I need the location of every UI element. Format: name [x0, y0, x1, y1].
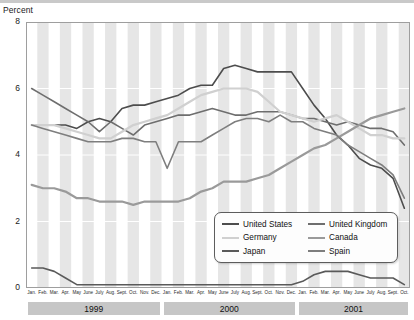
x-axis-tick-label: July — [366, 290, 374, 295]
x-axis-tick-label: Apr. — [61, 290, 69, 295]
legend-item-united-kingdom: United Kingdom — [308, 217, 394, 231]
x-axis-tick-label: Aug. — [106, 290, 115, 295]
legend-swatch-icon — [308, 237, 325, 239]
x-axis-tick-label: Apr. — [197, 290, 205, 295]
x-axis-tick-label: Sept. — [388, 290, 399, 295]
x-axis-tick-label: Dec. — [151, 290, 160, 295]
legend-swatch-icon — [308, 223, 325, 225]
chart-page: Percent 02468 Jan.Feb.Mar.Apr.MayJuneJul… — [0, 0, 414, 320]
x-axis-tick-label: Oct. — [129, 290, 137, 295]
legend-label: Spain — [329, 247, 350, 256]
x-axis-tick-label: May — [72, 290, 81, 295]
x-axis-tick-label: June — [354, 290, 364, 295]
legend-label: United Kingdom — [329, 220, 387, 229]
x-axis-tick-label: May — [344, 290, 353, 295]
x-axis-tick-label: Aug. — [242, 290, 251, 295]
x-axis-tick-label: Feb. — [309, 290, 318, 295]
x-axis-tick-label: Feb. — [174, 290, 183, 295]
legend-label: Japan — [243, 247, 265, 256]
x-axis-tick-label: Jan. — [163, 290, 172, 295]
legend-item-spain: Spain — [308, 244, 394, 258]
y-axis-tick-label: 4 — [2, 149, 20, 159]
x-axis-tick-label: Jan. — [27, 290, 36, 295]
x-axis-tick-label: Feb. — [38, 290, 47, 295]
year-band-2001: 2001 — [299, 302, 408, 315]
x-axis-tick-label: Sept. — [117, 290, 128, 295]
y-axis-title: Percent — [3, 5, 33, 15]
x-axis-tick-group: Jan.Feb.Mar.Apr.MayJuneJulyAug.Sept.Oct.… — [26, 290, 410, 300]
y-axis-tick-label: 0 — [2, 282, 20, 292]
x-axis-tick-label: Sept. — [252, 290, 263, 295]
legend-swatch-icon — [222, 223, 239, 225]
legend-item-germany: Germany — [222, 231, 308, 245]
legend-label: United States — [243, 220, 292, 229]
x-axis-tick-label: Aug. — [377, 290, 386, 295]
legend-swatch-icon — [222, 237, 239, 239]
legend-swatch-icon — [222, 250, 239, 252]
x-axis-tick-label: Oct. — [265, 290, 273, 295]
year-band-group: 199920002001 — [26, 302, 410, 316]
year-band-2000: 2000 — [164, 302, 296, 315]
x-axis-tick-label: Mar. — [185, 290, 194, 295]
year-band-1999: 1999 — [28, 302, 160, 315]
legend-item-canada: Canada — [308, 231, 394, 245]
y-axis-tick-label: 2 — [2, 216, 20, 226]
x-axis-tick-label: May — [208, 290, 217, 295]
legend-label: Canada — [329, 233, 358, 242]
y-axis-tick-label: 6 — [2, 83, 20, 93]
chart-legend: United StatesUnited KingdomGermanyCanada… — [214, 212, 398, 263]
x-axis-tick-label: Mar. — [321, 290, 330, 295]
x-axis-tick-label: Nov. — [276, 290, 285, 295]
legend-item-united-states: United States — [222, 217, 308, 231]
x-axis-tick-label: June — [83, 290, 93, 295]
x-axis-tick-label: Oct. — [400, 290, 408, 295]
x-axis-tick-label: Nov. — [140, 290, 149, 295]
x-axis-tick-label: July — [231, 290, 239, 295]
x-axis-tick-label: July — [95, 290, 103, 295]
legend-items: United StatesUnited KingdomGermanyCanada… — [222, 217, 392, 258]
y-axis-tick-label: 8 — [2, 16, 20, 26]
legend-swatch-icon — [308, 250, 325, 252]
x-axis-tick-label: Mar. — [50, 290, 59, 295]
x-axis-tick-label: Jan. — [298, 290, 307, 295]
x-axis-tick-label: Apr. — [332, 290, 340, 295]
legend-label: Germany — [243, 233, 277, 242]
x-axis-tick-label: June — [219, 290, 229, 295]
x-axis-tick-label: Dec. — [287, 290, 296, 295]
top-divider-rule — [0, 0, 414, 3]
legend-item-japan: Japan — [222, 244, 308, 258]
